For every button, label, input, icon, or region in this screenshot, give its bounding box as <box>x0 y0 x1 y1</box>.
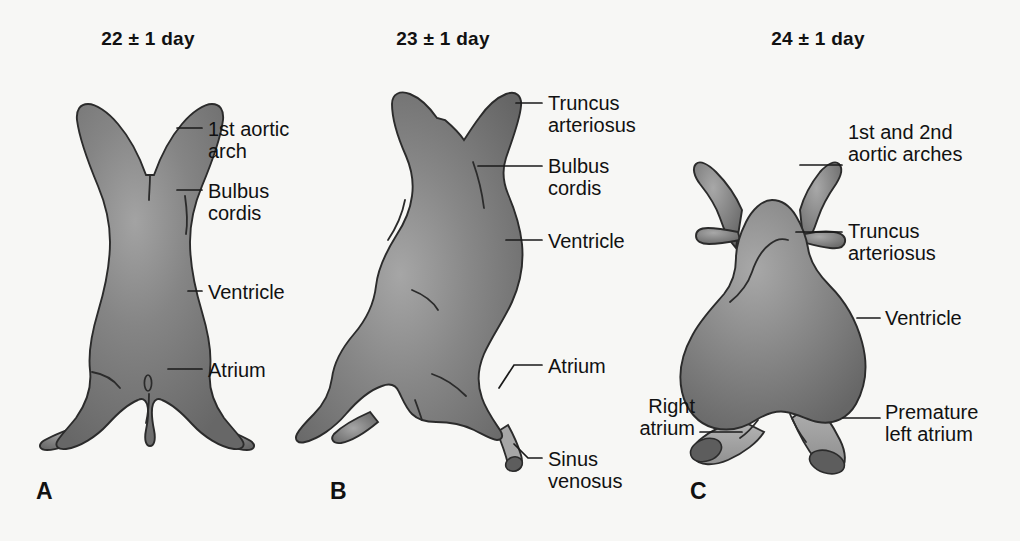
panel-b-label-ventricle: Ventricle <box>548 230 625 252</box>
panel-b-heart <box>296 92 525 473</box>
panel-a-letter: A <box>36 478 53 505</box>
panel-b-label-bulbus-cordis: Bulbus cordis <box>548 155 609 200</box>
panel-b-letter: B <box>330 478 347 505</box>
panel-b-label-truncus-arteriosus: Truncus arteriosus <box>548 92 636 137</box>
panel-c-label-aortic-arches: 1st and 2nd aortic arches <box>848 121 963 166</box>
panel-c-label-right-atrium: Right atrium <box>639 395 695 440</box>
panel-c-label-ventricle: Ventricle <box>885 307 962 329</box>
panel-c-heart <box>680 162 865 478</box>
heart-stages-illustration <box>0 0 1020 541</box>
panel-a-label-bulbus-cordis: Bulbus cordis <box>208 180 269 225</box>
panel-a-title: 22 ± 1 day <box>101 28 195 50</box>
panel-b-label-sinus-venosus: Sinus venosus <box>548 448 623 493</box>
panel-a-label-ventricle: Ventricle <box>208 281 285 303</box>
panel-c-label-truncus-arteriosus: Truncus arteriosus <box>848 220 936 265</box>
panel-b-title: 23 ± 1 day <box>396 28 490 50</box>
embryonic-heart-figure: 22 ± 1 day 1st aortic arch Bulbus cordis… <box>0 0 1020 541</box>
panel-b-label-atrium: Atrium <box>548 355 606 377</box>
panel-c-letter: C <box>690 478 707 505</box>
panel-c-label-premature-left-atrium: Premature left atrium <box>885 401 978 446</box>
panel-a-label-atrium: Atrium <box>208 359 266 381</box>
panel-a-label-1st-aortic-arch: 1st aortic arch <box>208 118 289 163</box>
panel-c-title: 24 ± 1 day <box>771 28 865 50</box>
